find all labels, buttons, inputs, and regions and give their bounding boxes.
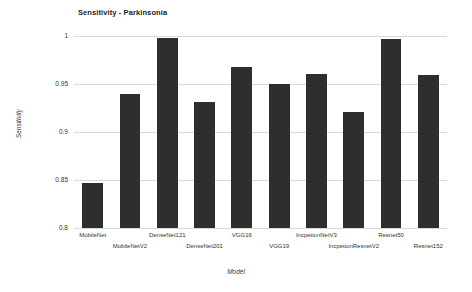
y-axis-tick-label: 1 — [24, 32, 68, 39]
y-axis-tick-label: 0.95 — [24, 80, 68, 87]
bar — [343, 112, 364, 228]
x-axis-tick-label: DenseNet201 — [186, 243, 223, 249]
bar — [306, 74, 327, 228]
bar — [194, 102, 215, 228]
x-axis-tick-label: IncpetionResnetV2 — [328, 243, 379, 249]
x-axis-tick-label: Resnet152 — [414, 243, 443, 249]
chart-title: Sensitivity - Parkinsonia — [78, 8, 167, 17]
bar — [231, 67, 252, 228]
bar — [381, 39, 402, 228]
plot-area — [74, 36, 447, 228]
y-axis-title: Sensitivity — [15, 94, 22, 154]
x-axis-tick-label: IncpetionNetV3 — [296, 232, 337, 238]
y-axis-tick-label: 0.8 — [24, 224, 68, 231]
bar — [120, 94, 141, 228]
y-axis-tick-label: 0.9 — [24, 128, 68, 135]
sensitivity-bar-chart: Sensitivity - Parkinsonia Sensitivity Mo… — [0, 0, 472, 292]
x-axis-tick-label: Resnet50 — [378, 232, 404, 238]
x-axis-tick-label: DenseNet121 — [149, 232, 186, 238]
x-axis-tick-labels: MobileNetMobileNetV2DenseNet121DenseNet2… — [74, 228, 447, 262]
x-axis-tick-label: MobileNet — [79, 232, 106, 238]
x-axis-tick-label: MobileNetV2 — [113, 243, 147, 249]
bar — [157, 38, 178, 228]
bar — [418, 75, 439, 228]
bar — [82, 183, 103, 228]
x-axis-tick-label: VGG19 — [269, 243, 289, 249]
bar — [269, 84, 290, 228]
y-axis-tick-label: 0.85 — [24, 176, 68, 183]
x-axis-tick-label: VGG16 — [232, 232, 252, 238]
x-axis-title: Model — [0, 268, 472, 275]
bar-series — [74, 36, 447, 228]
